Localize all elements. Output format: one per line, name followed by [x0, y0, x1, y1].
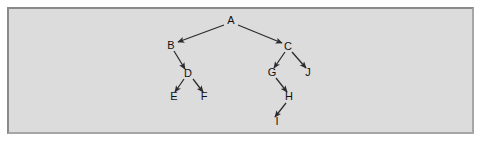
node-label-e: E [170, 90, 177, 102]
edge-a-to-c [238, 25, 282, 43]
node-label-j: J [305, 66, 311, 78]
edge-a-to-b [178, 25, 224, 42]
edge-layer [174, 25, 306, 117]
node-label-d: D [184, 67, 192, 79]
figure-page: ABCDEFGJHI [0, 0, 483, 143]
edge-c-to-j [292, 52, 306, 68]
node-label-f: F [201, 90, 208, 102]
node-label-i: I [275, 115, 278, 127]
node-label-a: A [227, 14, 235, 26]
node-layer: ABCDEFGJHI [167, 14, 310, 127]
node-label-c: C [284, 40, 292, 52]
node-label-g: G [268, 66, 277, 78]
node-label-h: H [285, 90, 293, 102]
node-label-b: B [167, 39, 174, 51]
directed-tree-graph: ABCDEFGJHI [0, 0, 483, 143]
